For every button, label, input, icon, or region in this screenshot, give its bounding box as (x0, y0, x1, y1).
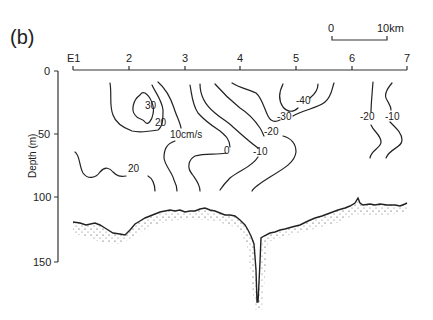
svg-text:-10: -10 (385, 111, 400, 122)
svg-text:0: 0 (328, 22, 334, 34)
svg-text:20: 20 (128, 163, 140, 174)
svg-text:3: 3 (182, 52, 188, 64)
svg-text:-20: -20 (360, 111, 375, 122)
svg-text:-20: -20 (264, 126, 279, 137)
svg-text:150: 150 (33, 256, 51, 268)
svg-text:100: 100 (33, 191, 51, 203)
svg-text:-40: -40 (296, 95, 311, 106)
svg-text:50: 50 (38, 128, 50, 140)
svg-text:30: 30 (145, 100, 157, 111)
contour-section-chart: (b) 0 10km E1 2 3 4 5 6 7 0 50 100 150 D… (0, 0, 433, 320)
svg-text:0: 0 (224, 145, 230, 156)
svg-text:-10: -10 (253, 146, 268, 157)
svg-text:0: 0 (44, 65, 50, 77)
svg-text:4: 4 (237, 52, 243, 64)
y-axis-label: Depth (m) (27, 134, 38, 178)
panel-label: (b) (10, 26, 34, 48)
svg-text:10km: 10km (377, 22, 404, 34)
svg-text:7: 7 (404, 52, 410, 64)
svg-text:20: 20 (155, 117, 167, 128)
svg-text:E1: E1 (67, 52, 80, 64)
x-axis: E1 2 3 4 5 6 7 (67, 52, 410, 70)
velocity-contours (75, 82, 402, 191)
svg-text:5: 5 (293, 52, 299, 64)
svg-text:2: 2 (126, 52, 132, 64)
sea-bottom (73, 198, 407, 310)
y-axis: 0 50 100 150 Depth (m) (27, 65, 58, 268)
svg-text:10cm/s: 10cm/s (170, 129, 202, 140)
svg-text:-30: -30 (277, 111, 292, 122)
svg-text:6: 6 (349, 52, 355, 64)
scale-bar: 0 10km (328, 22, 404, 40)
